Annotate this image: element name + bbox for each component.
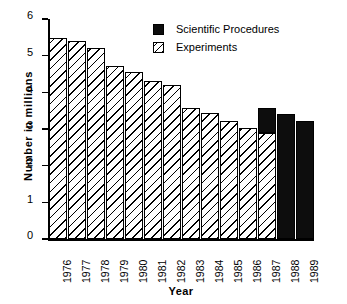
y-tick-label: 1 xyxy=(27,194,33,205)
bar-group xyxy=(68,19,86,239)
bar-segment-scientific-procedures xyxy=(277,114,295,239)
y-tick-label: 5 xyxy=(27,47,33,58)
bar-chart: Number in millions 0123456 1976197719781… xyxy=(0,0,347,304)
x-tick-label: 1983 xyxy=(195,239,206,283)
bar-group xyxy=(106,19,124,239)
legend-swatch-solid-icon xyxy=(153,24,164,35)
bar-segment-experiments xyxy=(144,81,162,239)
y-tick-label: 4 xyxy=(27,84,33,95)
bar-segment-experiments xyxy=(87,48,105,239)
bar-segment-experiments xyxy=(258,133,276,239)
bar-segment-scientific-procedures xyxy=(296,121,314,239)
bar-segment-experiments xyxy=(239,128,257,239)
bar-segment-experiments xyxy=(182,108,200,239)
y-tick-label: 6 xyxy=(27,10,33,21)
legend-item: Scientific Procedures xyxy=(153,21,333,37)
bar-group xyxy=(125,19,143,239)
x-axis-ticklabels: 1976197719781979198019811982198319841985… xyxy=(48,241,314,285)
x-tick-label: 1976 xyxy=(62,239,73,283)
bar-segment-experiments xyxy=(220,121,238,239)
legend-swatch-hatch-icon xyxy=(153,42,164,53)
y-tick: 5 xyxy=(42,55,48,56)
legend-label: Scientific Procedures xyxy=(176,23,279,35)
x-tick-label: 1980 xyxy=(138,239,149,283)
bar-segment-experiments xyxy=(163,85,181,239)
bar-segment-experiments xyxy=(125,72,143,239)
x-tick-label: 1987 xyxy=(271,239,282,283)
x-tick-label: 1977 xyxy=(81,239,92,283)
bar-group xyxy=(87,19,105,239)
x-tick-label: 1988 xyxy=(290,239,301,283)
x-tick-label: 1978 xyxy=(100,239,111,283)
x-tick-label: 1986 xyxy=(252,239,263,283)
legend-item: Experiments xyxy=(153,39,333,55)
x-tick-label: 1982 xyxy=(176,239,187,283)
y-tick: 3 xyxy=(42,128,48,129)
y-tick: 6 xyxy=(42,18,48,19)
x-tick-label: 1981 xyxy=(157,239,168,283)
bar-segment-scientific-procedures xyxy=(258,108,276,134)
y-tick: 1 xyxy=(42,202,48,203)
y-tick: 0 xyxy=(42,238,48,239)
x-tick-label: 1989 xyxy=(309,239,320,283)
legend-label: Experiments xyxy=(176,41,237,53)
y-tick: 4 xyxy=(42,92,48,93)
y-tick-label: 0 xyxy=(27,230,33,241)
x-axis-title: Year xyxy=(48,285,314,297)
x-tick-label: 1979 xyxy=(119,239,130,283)
y-tick-label: 2 xyxy=(27,157,33,168)
bar-segment-experiments xyxy=(201,113,219,240)
y-tick-label: 3 xyxy=(27,120,33,131)
bar-segment-experiments xyxy=(68,41,86,239)
x-tick-label: 1985 xyxy=(233,239,244,283)
x-tick-label: 1984 xyxy=(214,239,225,283)
bar-segment-experiments xyxy=(106,66,124,239)
y-tick: 2 xyxy=(42,165,48,166)
bar-group xyxy=(49,19,67,239)
bar-segment-experiments xyxy=(49,38,67,239)
chart-legend: Scientific ProceduresExperiments xyxy=(153,21,333,57)
